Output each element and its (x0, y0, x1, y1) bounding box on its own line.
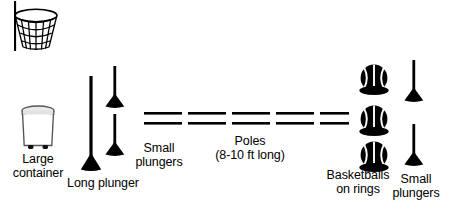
basketball-on-ring-icon (355, 63, 393, 97)
small-plungers-left-label: Small plungers (127, 141, 191, 169)
pole-icon (144, 109, 349, 131)
small-plunger-left-1-figure (104, 66, 126, 109)
poles-figure (144, 109, 349, 131)
basketball-hoop-figure (10, 1, 70, 57)
small-plunger-icon (403, 60, 425, 103)
small-plunger-right-1-figure (403, 60, 425, 103)
large-container-figure (17, 104, 59, 152)
basketball-on-ring-2-figure (355, 104, 393, 138)
basketball-hoop-with-net-icon (10, 1, 70, 57)
large-container-icon (17, 104, 59, 152)
long-plunger-label: Long plunger (48, 176, 158, 190)
long-plunger-figure (79, 76, 103, 173)
small-plungers-right-label: Small plungers (384, 172, 448, 200)
small-plunger-left-2-figure (104, 114, 126, 157)
small-plunger-right-2-figure (403, 124, 425, 167)
small-plunger-icon (104, 66, 126, 109)
poles-label: Poles (8-10 ft long) (192, 134, 308, 162)
basketball-on-ring-icon (355, 104, 393, 138)
small-plunger-icon (403, 124, 425, 167)
equipment-diagram: Large container Long plunger Small plung… (0, 0, 453, 215)
long-plunger-icon (79, 76, 103, 173)
small-plunger-icon (104, 114, 126, 157)
basketball-on-ring-1-figure (355, 63, 393, 97)
